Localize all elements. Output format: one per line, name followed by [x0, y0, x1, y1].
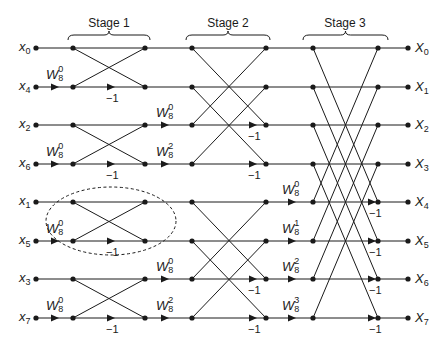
output-node-dot: [405, 161, 410, 166]
negation-arrow-icon: [249, 161, 257, 168]
output-label-X0: X0: [415, 41, 429, 57]
butterfly-node-dot: [70, 122, 75, 127]
butterfly-node-dot: [70, 45, 75, 50]
butterfly-node-dot: [375, 238, 380, 243]
butterfly-node-dot: [310, 199, 315, 204]
butterfly-node-dot: [189, 315, 194, 320]
input-label-x3: x3: [19, 271, 31, 287]
twiddle-factor-label: W18: [282, 219, 299, 237]
butterfly-node-dot: [375, 199, 380, 204]
output-node-dot: [405, 315, 410, 320]
butterfly-node-dot: [375, 45, 380, 50]
input-label-x7: x7: [19, 310, 31, 326]
negation-label: −1: [369, 285, 382, 296]
input-label-x2: x2: [19, 117, 31, 133]
butterfly-node-dot: [70, 199, 75, 204]
output-label-X1: X1: [415, 80, 429, 96]
negation-label: −1: [369, 208, 382, 219]
twiddle-arrow-icon: [288, 238, 296, 245]
butterfly-node-dot: [310, 122, 315, 127]
output-label-X3: X3: [415, 157, 429, 173]
butterfly-node-dot: [310, 238, 315, 243]
stage-brace: [303, 31, 388, 40]
butterfly-node-dot: [375, 161, 380, 166]
output-label-X6: X6: [415, 272, 429, 288]
input-node-dot: [33, 238, 38, 243]
twiddle-arrow-icon: [161, 161, 169, 168]
twiddle-arrow-icon: [161, 122, 169, 129]
butterfly-node-dot: [375, 122, 380, 127]
negation-arrow-icon: [249, 276, 257, 283]
butterfly-node-dot: [263, 84, 268, 89]
twiddle-factor-label: W28: [156, 296, 173, 314]
input-label-x4: x4: [19, 79, 31, 95]
twiddle-arrow-icon: [288, 199, 296, 206]
butterfly-node-dot: [263, 238, 268, 243]
negation-arrow-icon: [107, 315, 115, 322]
output-label-X7: X7: [415, 311, 429, 327]
butterfly-node-dot: [375, 315, 380, 320]
butterfly-node-dot: [310, 84, 315, 89]
butterfly-node-dot: [263, 276, 268, 281]
butterfly-node-dot: [310, 161, 315, 166]
negation-label: −1: [248, 324, 261, 335]
output-node-dot: [405, 238, 410, 243]
butterfly-node-dot: [310, 45, 315, 50]
twiddle-arrow-icon: [161, 315, 169, 322]
negation-label: −1: [369, 247, 382, 258]
input-label-x5: x5: [19, 233, 31, 249]
negation-arrow-icon: [107, 84, 115, 91]
butterfly-node-dot: [263, 199, 268, 204]
butterfly-node-dot: [263, 45, 268, 50]
twiddle-arrow-icon: [51, 84, 59, 91]
twiddle-factor-label: W38: [282, 296, 299, 314]
butterfly-node-dot: [70, 238, 75, 243]
negation-label: −1: [106, 93, 119, 104]
twiddle-arrow-icon: [288, 276, 296, 283]
butterfly-node-dot: [263, 122, 268, 127]
input-node-dot: [33, 161, 38, 166]
output-label-X2: X2: [415, 118, 429, 134]
negation-arrow-icon: [368, 238, 376, 245]
input-node-dot: [33, 122, 38, 127]
butterfly-node-dot: [70, 276, 75, 281]
negation-label: −1: [106, 324, 119, 335]
output-node-dot: [405, 122, 410, 127]
twiddle-arrow-icon: [288, 315, 296, 322]
butterfly-node-dot: [70, 315, 75, 320]
output-node-dot: [405, 84, 410, 89]
input-node-dot: [33, 276, 38, 281]
input-node-dot: [33, 315, 38, 320]
butterfly-node-dot: [310, 276, 315, 281]
butterfly-node-dot: [375, 276, 380, 281]
butterfly-node-dot: [189, 161, 194, 166]
butterfly-node-dot: [375, 84, 380, 89]
negation-arrow-icon: [368, 276, 376, 283]
negation-label: −1: [248, 285, 261, 296]
negation-arrow-icon: [368, 199, 376, 206]
highlight-ellipse: [46, 187, 176, 255]
stage-2-title: Stage 2: [207, 17, 248, 29]
butterfly-node-dot: [189, 199, 194, 204]
stage-brace: [68, 31, 150, 40]
twiddle-factor-label: W08: [46, 296, 63, 314]
butterfly-node-dot: [142, 122, 147, 127]
butterfly-node-dot: [142, 45, 147, 50]
negation-arrow-icon: [249, 122, 257, 129]
butterfly-node-dot: [142, 84, 147, 89]
twiddle-factor-label: W08: [46, 219, 63, 237]
butterfly-node-dot: [189, 276, 194, 281]
negation-label: −1: [106, 170, 119, 181]
negation-label: −1: [248, 131, 261, 142]
negation-arrow-icon: [249, 315, 257, 322]
stage-1-title: Stage 1: [88, 17, 129, 29]
twiddle-factor-label: W28: [282, 257, 299, 275]
input-node-dot: [33, 199, 38, 204]
butterfly-node-dot: [189, 238, 194, 243]
butterfly-node-dot: [142, 238, 147, 243]
input-node-dot: [33, 45, 38, 50]
twiddle-arrow-icon: [51, 161, 59, 168]
twiddle-factor-label: W08: [46, 65, 63, 83]
negation-label: −1: [106, 247, 119, 258]
input-node-dot: [33, 84, 38, 89]
